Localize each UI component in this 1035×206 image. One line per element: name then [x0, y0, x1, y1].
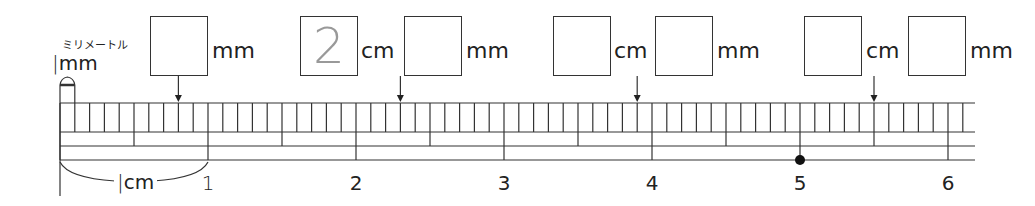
arrow-head-icon	[175, 95, 182, 102]
unit-cm-q3: cm	[614, 40, 648, 62]
unit-mm-q2: mm	[466, 40, 509, 62]
unit-mm-q3: mm	[717, 40, 760, 62]
arrow-head-icon	[397, 95, 404, 102]
answer-box-q1-mm[interactable]	[150, 16, 208, 76]
ruler-number-3: 3	[498, 173, 511, 193]
arrow-head-icon	[634, 95, 641, 102]
answer-box-q2-mm[interactable]	[404, 16, 462, 76]
ruler-number-1: 1	[202, 173, 215, 193]
ruler-number-5: 5	[794, 173, 807, 193]
answer-box-q3-mm[interactable]	[655, 16, 713, 76]
one-glyph: |	[117, 170, 124, 194]
one-mm-label: |mm	[52, 53, 98, 73]
mm-unit: mm	[59, 51, 98, 75]
ruler-number-2: 2	[350, 173, 363, 193]
answer-box-q4-cm[interactable]	[804, 16, 862, 76]
answer-box-q3-cm[interactable]	[553, 16, 611, 76]
cm-unit: cm	[124, 170, 154, 194]
one-glyph: |	[52, 51, 59, 75]
ruler-number-6: 6	[942, 173, 955, 193]
answer-box-q4-mm[interactable]	[908, 16, 966, 76]
unit-mm-q4: mm	[970, 40, 1013, 62]
answer-value-q2-cm: 2	[301, 21, 357, 71]
unit-mm-q1: mm	[212, 40, 255, 62]
marker-dot	[795, 155, 805, 165]
arrow-head-icon	[871, 95, 878, 102]
unit-cm-q2: cm	[361, 40, 395, 62]
answer-box-q2-cm[interactable]: 2	[300, 16, 358, 76]
ruler-number-4: 4	[646, 173, 659, 193]
unit-cm-q4: cm	[866, 40, 900, 62]
one-cm-label: |cm	[114, 172, 157, 192]
